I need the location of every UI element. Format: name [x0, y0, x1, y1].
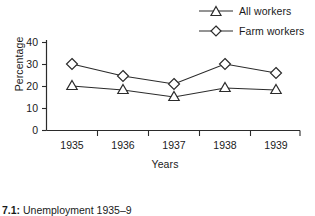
x-tick-label-1937: 1937	[149, 140, 199, 151]
series-farm-workers	[67, 59, 282, 90]
figure-caption-text: Unemployment 1935–9	[23, 204, 132, 216]
y-tick-label-40: 40	[12, 37, 38, 47]
diamond-marker-group	[67, 59, 282, 90]
legend-item-all-workers: All workers	[198, 4, 291, 18]
y-tick-label-0: 0	[12, 125, 38, 135]
x-tick-label-1938: 1938	[200, 140, 250, 151]
figure-unemployment-chart: Percentage Years 40 30 20 10 0 1935 1936…	[0, 0, 315, 216]
figure-number: 7.1:	[2, 204, 20, 216]
x-tick-label-1936: 1936	[98, 140, 148, 151]
x-tick-label-1939: 1939	[251, 140, 301, 151]
legend-label-all-workers: All workers	[234, 5, 291, 17]
x-axis-ticks	[98, 131, 301, 137]
y-tick-label-30: 30	[12, 59, 38, 69]
legend-item-farm-workers: Farm workers	[198, 24, 304, 38]
legend-label-farm-workers: Farm workers	[234, 25, 304, 37]
figure-caption: 7.1: Unemployment 1935–9	[2, 204, 132, 216]
y-tick-label-10: 10	[12, 103, 38, 113]
x-axis-title: Years	[40, 158, 290, 170]
y-tick-label-20: 20	[12, 81, 38, 91]
diamond-marker-icon	[198, 25, 234, 37]
triangle-marker-icon	[198, 5, 234, 17]
chart-legend: All workers Farm workers	[198, 2, 315, 42]
y-axis-ticks	[42, 43, 47, 131]
x-tick-label-1935: 1935	[47, 140, 97, 151]
